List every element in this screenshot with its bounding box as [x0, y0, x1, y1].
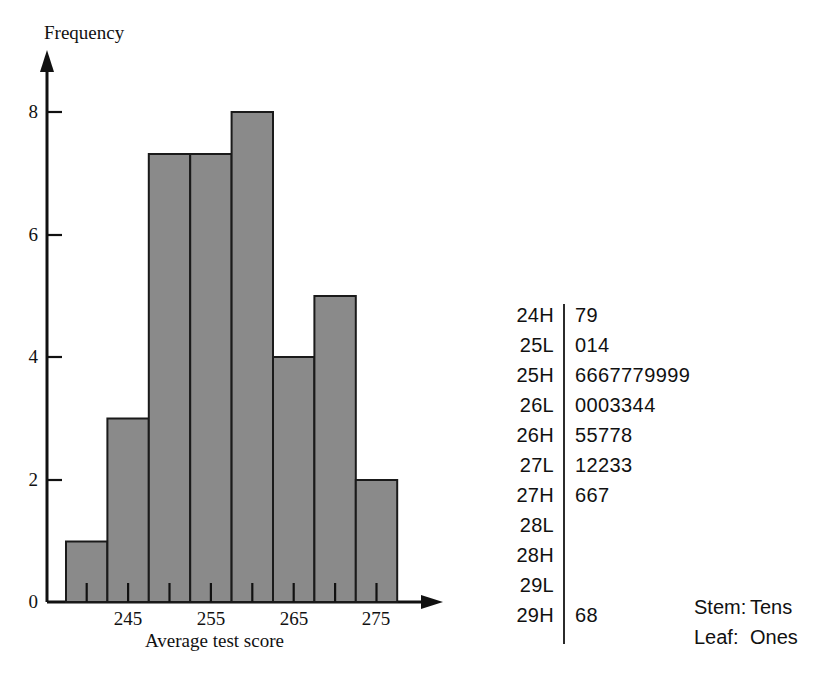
stem-label: 27L [498, 450, 554, 480]
stem-and-leaf-plot: 24H 79 25L 014 25H 6667779999 26L 000334… [498, 300, 828, 660]
stem-leaf-row: 27L 12233 [498, 450, 828, 480]
stem-leaf-row: 24H 79 [498, 300, 828, 330]
stem-leaf-legend: Stem:Tens Leaf:Ones [694, 592, 798, 652]
stem-leaf-row: 26H 55778 [498, 420, 828, 450]
x-tick-label-245: 245 [98, 608, 158, 630]
x-tick-label-255: 255 [181, 608, 241, 630]
leaf-values: 667 [575, 480, 610, 510]
y-axis-ticks [48, 112, 62, 480]
histogram-chart [0, 0, 470, 684]
stem-label: 29L [498, 570, 554, 600]
histogram-bars [66, 112, 397, 602]
stem-label: 28H [498, 540, 554, 570]
leaf-values: 0003344 [575, 390, 656, 420]
y-tick-label-8: 8 [12, 101, 38, 123]
bar-bin-2 [107, 419, 148, 603]
stem-label: 29H [498, 600, 554, 630]
bar-bin-6 [273, 357, 314, 602]
leaf-legend-key: Leaf: [694, 622, 750, 652]
stem-leaf-row: 25L 014 [498, 330, 828, 360]
x-tick-label-265: 265 [264, 608, 324, 630]
stem-leaf-row: 26L 0003344 [498, 390, 828, 420]
leaf-values: 55778 [575, 420, 633, 450]
histogram-panel: Frequency 8 6 4 2 0 245 255 265 275 Aver… [0, 0, 470, 684]
y-tick-label-2: 2 [12, 469, 38, 491]
stem-leaf-row: 27H 667 [498, 480, 828, 510]
stem-label: 28L [498, 510, 554, 540]
stem-label: 24H [498, 300, 554, 330]
stem-leaf-row: 25H 6667779999 [498, 360, 828, 390]
stem-label: 25H [498, 360, 554, 390]
leaf-values: 68 [575, 600, 598, 630]
y-tick-label-0: 0 [12, 591, 38, 613]
stem-leaf-row: 28L [498, 510, 828, 540]
bar-bin-3 [149, 154, 190, 602]
x-axis-title: Average test score [145, 630, 284, 652]
stem-legend-key: Stem: [694, 592, 750, 622]
leaf-values: 014 [575, 330, 610, 360]
stem-legend-value: Tens [750, 592, 792, 622]
leaf-values: 12233 [575, 450, 633, 480]
x-tick-label-275: 275 [346, 608, 406, 630]
stem-label: 27H [498, 480, 554, 510]
y-tick-label-6: 6 [12, 224, 38, 246]
bar-bin-5 [232, 112, 273, 602]
leaf-legend-value: Ones [750, 622, 798, 652]
bar-bin-4 [190, 154, 231, 602]
stem-legend-line: Stem:Tens [694, 592, 798, 622]
y-axis [40, 50, 54, 602]
y-tick-label-4: 4 [12, 346, 38, 368]
stem-label: 26L [498, 390, 554, 420]
stem-label: 25L [498, 330, 554, 360]
stem-label: 26H [498, 420, 554, 450]
leaf-values: 6667779999 [575, 360, 690, 390]
y-axis-title: Frequency [44, 22, 124, 44]
leaf-values: 79 [575, 300, 598, 330]
leaf-legend-line: Leaf:Ones [694, 622, 798, 652]
bar-bin-7 [314, 296, 355, 602]
stem-leaf-row: 28H [498, 540, 828, 570]
